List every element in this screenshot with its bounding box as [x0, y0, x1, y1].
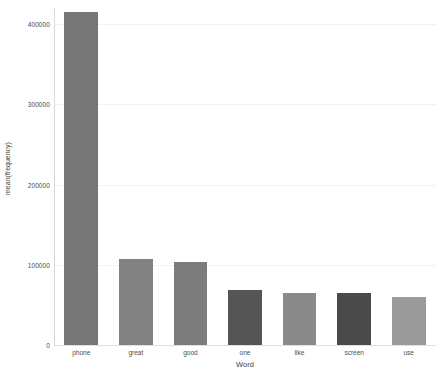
x-tick-label-great: great — [128, 349, 143, 356]
bar-slot — [392, 8, 426, 345]
x-tick-label-phone: phone — [72, 349, 90, 356]
bar-chart: 0100000200000300000400000 phonegreatgood… — [0, 0, 443, 378]
bar-slot — [337, 8, 371, 345]
x-axis-line — [54, 345, 436, 346]
bar-slot — [283, 8, 317, 345]
bar-screen[interactable] — [337, 293, 371, 345]
bar-great[interactable] — [119, 259, 153, 345]
y-tick-label-0: 0 — [4, 342, 50, 349]
bar-slot — [174, 8, 208, 345]
x-tick-label-use: use — [403, 349, 413, 356]
y-axis-label-text: mean(frequency) — [4, 142, 11, 195]
x-tick-label-one: one — [240, 349, 251, 356]
x-tick-label-screen: screen — [344, 349, 364, 356]
bar-good[interactable] — [174, 262, 208, 345]
bar-slot — [64, 8, 98, 345]
y-axis-label: mean(frequency) — [0, 0, 14, 337]
bar-phone[interactable] — [64, 12, 98, 345]
bar-slot — [119, 8, 153, 345]
bar-slot — [228, 8, 262, 345]
x-tick-label-like: like — [295, 349, 305, 356]
bar-one[interactable] — [228, 290, 262, 345]
x-axis-label: Word — [54, 360, 436, 369]
bar-like[interactable] — [283, 293, 317, 345]
bars-group — [54, 8, 436, 345]
bar-use[interactable] — [392, 297, 426, 345]
x-tick-label-good: good — [183, 349, 197, 356]
top-clipped-text — [40, 0, 300, 6]
